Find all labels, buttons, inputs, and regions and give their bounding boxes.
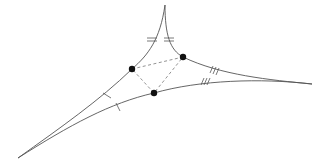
edge-bottom [18,81,312,158]
diagram-canvas [0,0,326,167]
point-bottom [151,90,157,96]
edge-top-right [165,5,312,84]
point-left [129,66,135,72]
double-tick-marks [147,38,174,41]
point-right [180,54,186,60]
ideal-triangle-diagram [0,0,326,167]
single-tick-marks [103,93,120,111]
edge-top-left [18,5,165,158]
